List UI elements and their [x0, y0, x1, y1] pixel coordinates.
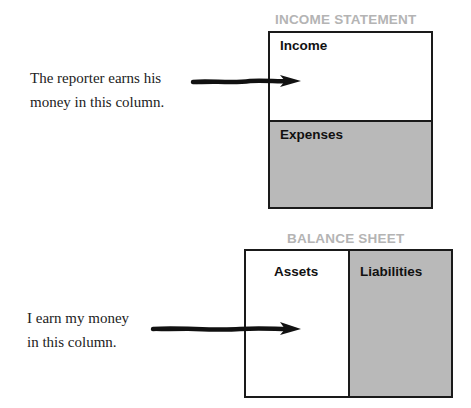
balance-sheet-title: BALANCE SHEET [287, 231, 404, 246]
annotation-self: I earn my money in this column. [27, 306, 129, 354]
assets-label: Assets [274, 264, 318, 279]
annotation-reporter: The reporter earns his money in this col… [30, 66, 164, 114]
annotation-self-line2: in this column. [27, 330, 129, 354]
annotation-reporter-line1: The reporter earns his [30, 66, 164, 90]
income-label: Income [280, 38, 327, 53]
expenses-row: Expenses [270, 120, 431, 207]
expenses-label: Expenses [280, 127, 343, 142]
annotation-reporter-line2: money in this column. [30, 90, 164, 114]
income-statement-title: INCOME STATEMENT [275, 12, 416, 27]
liabilities-label: Liabilities [360, 264, 422, 279]
arrow-right-icon [190, 72, 305, 92]
arrow-right-icon [150, 319, 305, 339]
income-statement-box: Income Expenses [268, 31, 433, 209]
liabilities-column: Liabilities [348, 251, 451, 396]
annotation-self-line1: I earn my money [27, 306, 129, 330]
